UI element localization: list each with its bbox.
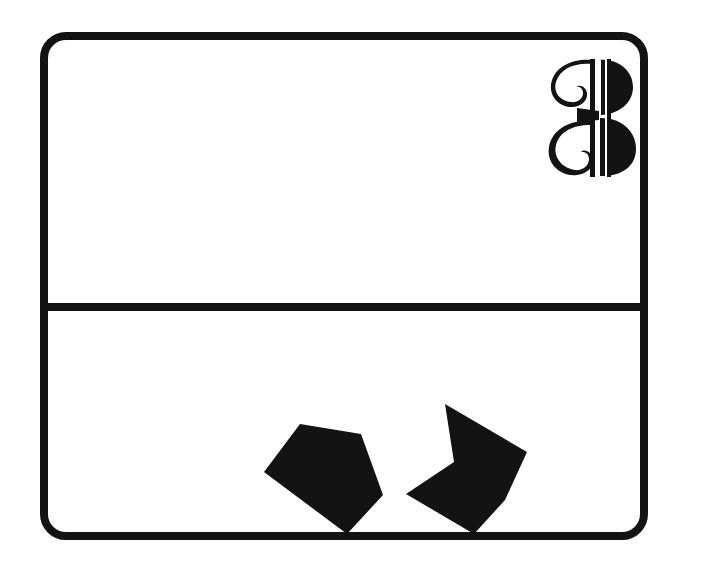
horizontal-rule-divider [40,303,648,311]
panel-bottom [48,311,640,532]
figure-page [0,0,703,574]
ornate-numeral-3-icon [543,54,639,180]
